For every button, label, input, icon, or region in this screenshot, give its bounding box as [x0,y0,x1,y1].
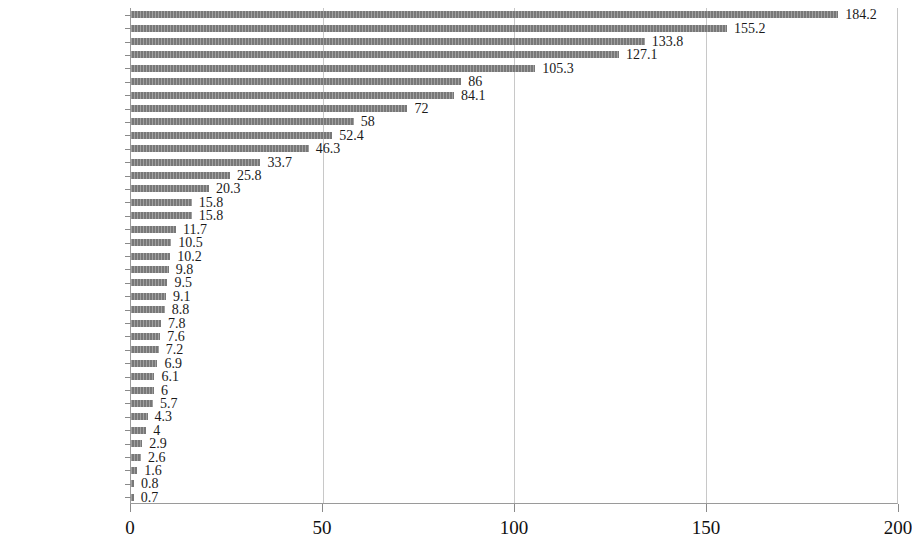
y-axis-tick [125,55,131,56]
y-axis-tick [125,68,131,69]
y-axis-tick [125,390,131,391]
bar-row: 11.7 [131,226,899,233]
bar[interactable] [131,172,230,179]
bar-row: 72 [131,105,899,112]
bar[interactable] [131,293,166,300]
x-axis-tick [898,504,899,512]
bar-row: 0.7 [131,494,899,501]
bar[interactable] [131,253,170,260]
y-axis-tick [125,350,131,351]
x-axis-tick-label: 100 [500,518,529,537]
bar-row: 15.8 [131,199,899,206]
bar[interactable] [131,159,260,166]
bar[interactable] [131,51,619,58]
bar-row: 9.8 [131,266,899,273]
bar-row: 7.8 [131,320,899,327]
bar[interactable] [131,199,192,206]
bar-row: 52.4 [131,132,899,139]
bar[interactable] [131,65,535,72]
bar[interactable] [131,185,209,192]
bar-value-label: 33.7 [267,156,292,170]
bar-value-label: 105.3 [542,62,574,76]
bar-row: 33.7 [131,159,899,166]
bar[interactable] [131,38,645,45]
x-axis-tick-label: 50 [313,518,332,537]
bar[interactable] [131,454,141,461]
bar-value-label: 72 [414,102,428,116]
bar[interactable] [131,11,838,18]
y-axis-tick [125,497,131,498]
bar-row: 46.3 [131,145,899,152]
bar[interactable] [131,387,154,394]
bar[interactable] [131,279,167,286]
bar[interactable] [131,333,160,340]
bar-row: 7.2 [131,346,899,353]
bar[interactable] [131,145,309,152]
bar[interactable] [131,239,171,246]
y-axis-tick [125,336,131,337]
bar-value-label: 84.1 [461,89,486,103]
bar-row: 1.6 [131,467,899,474]
bar[interactable] [131,320,161,327]
y-axis-tick [125,122,131,123]
bar[interactable] [131,132,332,139]
x-axis-labels: 050100150200 [0,518,910,546]
bar[interactable] [131,212,192,219]
bar[interactable] [131,373,154,380]
bar-row: 155.2 [131,25,899,32]
bar[interactable] [131,266,169,273]
bar[interactable] [131,360,157,367]
y-axis-tick [125,403,131,404]
bar-value-label: 52.4 [339,129,364,143]
bar[interactable] [131,25,727,32]
y-axis-tick [125,363,131,364]
x-axis-tick-label: 200 [884,518,912,537]
bar-value-label: 8.8 [172,303,190,317]
bar[interactable] [131,494,134,501]
bar-row: 10.2 [131,253,899,260]
y-axis-tick [125,269,131,270]
y-axis-tick [125,470,131,471]
bar[interactable] [131,480,134,487]
bar-row: 0.8 [131,480,899,487]
bar[interactable] [131,226,176,233]
bar-row: 25.8 [131,172,899,179]
bar[interactable] [131,413,148,420]
bar-value-label: 10.5 [178,236,203,250]
bar[interactable] [131,346,159,353]
bar-row: 7.6 [131,333,899,340]
y-axis-tick [125,417,131,418]
y-axis-tick [125,95,131,96]
bars-layer: 184.2155.2133.8127.1105.38684.1725852.44… [131,8,899,504]
y-axis-tick [125,323,131,324]
bar[interactable] [131,78,461,85]
bar-row: 4 [131,427,899,434]
bar-row: 6 [131,387,899,394]
bar-value-label: 184.2 [845,8,877,22]
bar[interactable] [131,306,165,313]
bar[interactable] [131,467,137,474]
y-axis-tick [125,82,131,83]
bar-row: 15.8 [131,212,899,219]
y-axis-tick [125,243,131,244]
bar[interactable] [131,92,454,99]
x-axis-tick [322,504,323,512]
y-axis-tick [125,109,131,110]
bar-value-label: 155.2 [734,22,766,36]
bar[interactable] [131,118,354,125]
bar-value-label: 127.1 [626,48,658,62]
bar-row: 20.3 [131,185,899,192]
bar[interactable] [131,105,407,112]
bar[interactable] [131,440,142,447]
bar[interactable] [131,427,146,434]
x-axis-ticks [130,504,899,513]
bar-row: 58 [131,118,899,125]
bar-row: 9.5 [131,279,899,286]
x-axis-tick [130,504,131,512]
bar[interactable] [131,400,153,407]
bar-row: 4.3 [131,413,899,420]
x-axis-tick [514,504,515,512]
y-axis-tick [125,15,131,16]
y-axis-tick [125,256,131,257]
y-axis-tick [125,149,131,150]
